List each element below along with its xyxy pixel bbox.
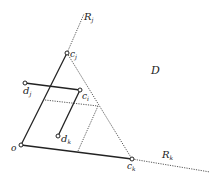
edge-dj-ci	[25, 83, 80, 90]
edge-ci-dk	[58, 90, 80, 136]
point-o	[19, 143, 23, 147]
label-rj: Rj	[83, 11, 94, 24]
projection-horizontal-dotted	[45, 100, 98, 106]
edge-cj-ck-dotted	[67, 53, 132, 159]
point-cj	[65, 51, 69, 55]
label-region-d: D	[150, 64, 160, 77]
label-dj: dj	[23, 85, 31, 98]
point-dk	[56, 134, 60, 138]
label-o: o	[11, 143, 17, 153]
label-ci: ci	[82, 91, 89, 102]
diagram-canvas: Rj Rk D cj ci ck dj dk o	[0, 0, 222, 183]
ray-rj-dotted	[67, 14, 84, 53]
projection-vertical-dotted	[78, 106, 98, 151]
edge-o-ck	[21, 145, 132, 159]
label-ck: ck	[127, 161, 136, 172]
label-rk: Rk	[161, 149, 174, 161]
label-dk: dk	[61, 133, 71, 145]
